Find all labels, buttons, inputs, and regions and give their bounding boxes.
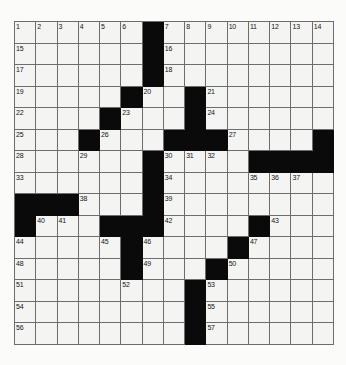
crossword-cell[interactable]: 36 — [270, 173, 291, 195]
crossword-cell[interactable] — [121, 151, 142, 173]
crossword-cell[interactable] — [79, 87, 100, 109]
crossword-cell[interactable] — [313, 65, 334, 87]
crossword-cell[interactable] — [185, 173, 206, 195]
crossword-cell[interactable] — [291, 302, 312, 324]
crossword-cell[interactable] — [206, 44, 227, 66]
crossword-cell[interactable] — [313, 237, 334, 259]
crossword-cell[interactable] — [143, 323, 164, 345]
crossword-cell[interactable] — [79, 173, 100, 195]
crossword-cell[interactable]: 45 — [100, 237, 121, 259]
crossword-cell[interactable]: 14 — [313, 22, 334, 44]
crossword-cell[interactable] — [58, 237, 79, 259]
crossword-cell[interactable] — [58, 130, 79, 152]
crossword-cell[interactable] — [36, 173, 57, 195]
crossword-cell[interactable] — [270, 108, 291, 130]
crossword-cell[interactable] — [249, 65, 270, 87]
crossword-cell[interactable] — [228, 323, 249, 345]
crossword-cell[interactable]: 41 — [58, 216, 79, 238]
crossword-cell[interactable] — [270, 65, 291, 87]
crossword-cell[interactable]: 54 — [15, 302, 36, 324]
crossword-cell[interactable] — [228, 108, 249, 130]
crossword-cell[interactable] — [313, 216, 334, 238]
crossword-cell[interactable] — [36, 323, 57, 345]
crossword-cell[interactable]: 25 — [15, 130, 36, 152]
crossword-cell[interactable] — [270, 259, 291, 281]
crossword-cell[interactable] — [36, 65, 57, 87]
crossword-cell[interactable] — [164, 87, 185, 109]
crossword-cell[interactable] — [58, 108, 79, 130]
crossword-cell[interactable] — [100, 151, 121, 173]
crossword-cell[interactable]: 46 — [143, 237, 164, 259]
crossword-cell[interactable] — [58, 65, 79, 87]
crossword-cell[interactable] — [185, 44, 206, 66]
crossword-cell[interactable] — [121, 44, 142, 66]
crossword-cell[interactable] — [36, 87, 57, 109]
crossword-cell[interactable] — [121, 302, 142, 324]
crossword-cell[interactable] — [79, 108, 100, 130]
crossword-cell[interactable] — [121, 194, 142, 216]
crossword-cell[interactable]: 16 — [164, 44, 185, 66]
crossword-cell[interactable] — [100, 65, 121, 87]
crossword-cell[interactable]: 31 — [185, 151, 206, 173]
crossword-cell[interactable]: 4 — [79, 22, 100, 44]
crossword-cell[interactable] — [164, 237, 185, 259]
crossword-cell[interactable]: 49 — [143, 259, 164, 281]
crossword-cell[interactable]: 5 — [100, 22, 121, 44]
crossword-cell[interactable] — [313, 108, 334, 130]
crossword-cell[interactable] — [121, 173, 142, 195]
crossword-cell[interactable] — [291, 87, 312, 109]
crossword-cell[interactable] — [164, 108, 185, 130]
crossword-cell[interactable]: 42 — [164, 216, 185, 238]
crossword-cell[interactable] — [185, 194, 206, 216]
crossword-cell[interactable]: 11 — [249, 22, 270, 44]
crossword-cell[interactable] — [36, 237, 57, 259]
crossword-cell[interactable] — [121, 65, 142, 87]
crossword-cell[interactable] — [228, 87, 249, 109]
crossword-cell[interactable] — [79, 237, 100, 259]
crossword-cell[interactable]: 55 — [206, 302, 227, 324]
crossword-cell[interactable]: 10 — [228, 22, 249, 44]
crossword-cell[interactable]: 48 — [15, 259, 36, 281]
crossword-cell[interactable]: 39 — [164, 194, 185, 216]
crossword-cell[interactable] — [291, 216, 312, 238]
crossword-cell[interactable]: 47 — [249, 237, 270, 259]
crossword-cell[interactable] — [249, 280, 270, 302]
crossword-cell[interactable] — [270, 87, 291, 109]
crossword-cell[interactable] — [270, 237, 291, 259]
crossword-cell[interactable]: 50 — [228, 259, 249, 281]
crossword-cell[interactable] — [270, 302, 291, 324]
crossword-cell[interactable] — [36, 44, 57, 66]
crossword-cell[interactable] — [121, 323, 142, 345]
crossword-cell[interactable] — [249, 87, 270, 109]
crossword-cell[interactable] — [100, 87, 121, 109]
crossword-cell[interactable]: 38 — [79, 194, 100, 216]
crossword-cell[interactable] — [58, 151, 79, 173]
crossword-cell[interactable]: 44 — [15, 237, 36, 259]
crossword-cell[interactable] — [58, 173, 79, 195]
crossword-cell[interactable] — [185, 65, 206, 87]
crossword-cell[interactable]: 29 — [79, 151, 100, 173]
crossword-cell[interactable] — [206, 237, 227, 259]
crossword-cell[interactable]: 33 — [15, 173, 36, 195]
crossword-cell[interactable] — [291, 237, 312, 259]
crossword-cell[interactable] — [270, 130, 291, 152]
crossword-cell[interactable] — [249, 302, 270, 324]
crossword-cell[interactable] — [228, 173, 249, 195]
crossword-cell[interactable] — [79, 302, 100, 324]
crossword-cell[interactable] — [291, 108, 312, 130]
crossword-cell[interactable] — [100, 194, 121, 216]
crossword-cell[interactable] — [313, 87, 334, 109]
crossword-cell[interactable] — [228, 194, 249, 216]
crossword-cell[interactable] — [206, 65, 227, 87]
crossword-cell[interactable]: 30 — [164, 151, 185, 173]
crossword-cell[interactable] — [206, 173, 227, 195]
crossword-cell[interactable] — [164, 280, 185, 302]
crossword-cell[interactable] — [249, 44, 270, 66]
crossword-cell[interactable] — [79, 44, 100, 66]
crossword-cell[interactable] — [143, 130, 164, 152]
crossword-cell[interactable]: 57 — [206, 323, 227, 345]
crossword-cell[interactable] — [79, 323, 100, 345]
crossword-cell[interactable]: 56 — [15, 323, 36, 345]
crossword-cell[interactable] — [36, 302, 57, 324]
crossword-cell[interactable] — [121, 130, 142, 152]
